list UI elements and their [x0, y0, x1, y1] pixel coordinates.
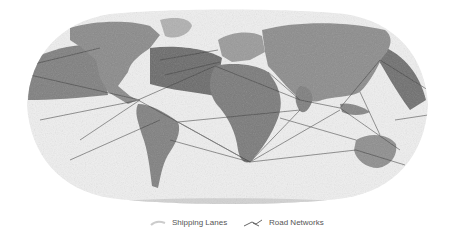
- globe-body: [0, 0, 454, 210]
- road-networks-line-icon: [243, 213, 263, 231]
- legend-label-shipping-lanes: Shipping Lanes: [172, 218, 227, 227]
- world-map: [0, 0, 454, 210]
- legend-label-road-networks: Road Networks: [269, 218, 324, 227]
- texture-overlay: [0, 0, 454, 210]
- world-map-svg: [0, 0, 454, 210]
- shipping-lanes-swatch-icon: [150, 213, 166, 231]
- map-legend: Shipping Lanes Road Networks: [0, 212, 454, 232]
- legend-item-road-networks: Road Networks: [243, 212, 324, 232]
- legend-item-shipping-lanes: Shipping Lanes: [150, 212, 227, 232]
